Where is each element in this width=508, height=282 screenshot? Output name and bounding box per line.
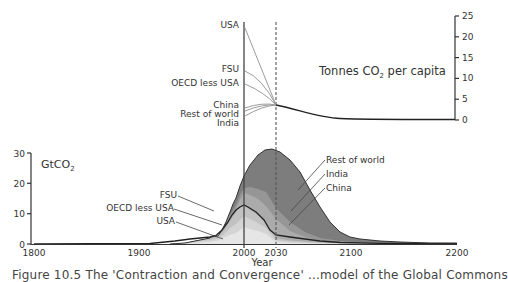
rtick-25: 25 [462,11,473,21]
label-fsu-top: FSU [222,64,239,74]
rtick-20: 20 [462,32,474,42]
bottom-left-leaders [174,196,223,239]
label-rest-of-world-bottom: Rest of world [326,155,385,165]
right-axis-labels: 25 20 15 10 5 0 [462,11,474,125]
label-usa-bottom: USA [156,216,175,226]
bottom-right-labels: Rest of world India China [326,155,385,193]
x-axis-title: Year [250,257,273,268]
per-capita-convergence-lines [245,28,276,116]
x-axis-labels: 1800 1900 2000 2030 2100 2200 Year [23,248,469,268]
right-axis [455,16,459,120]
bottom-chart-title: GtCO2 [41,158,75,173]
rtick-10: 10 [462,73,474,83]
label-oecd-top: OECD less USA [171,78,240,88]
ytick-20: 20 [14,179,26,189]
label-fsu-bottom: FSU [160,190,177,200]
label-india-top: India [217,118,239,128]
ytick-10: 10 [14,209,26,219]
line-usa-per-capita [245,28,276,105]
rtick-0: 0 [462,115,468,125]
top-country-labels: USA FSU OECD less USA China Rest of worl… [171,20,240,128]
bottom-left-axis-labels: 30 20 10 0 [14,149,26,250]
ytick-30: 30 [14,149,26,159]
bottom-left-labels: FSU OECD less USA USA [106,190,177,226]
figure-caption: Figure 10.5 The 'Contraction and Converg… [12,268,508,282]
xtick-1900: 1900 [128,248,151,258]
label-china-bottom: China [326,183,352,193]
emissions-area-chart [34,149,457,244]
xtick-1800: 1800 [23,248,46,258]
rtick-15: 15 [462,53,473,63]
xtick-2100: 2100 [340,248,363,258]
label-usa-top: USA [220,20,239,30]
line-global-per-capita [276,105,455,120]
xtick-2200: 2200 [446,248,469,258]
label-india-bottom: India [326,169,348,179]
label-oecd-bottom: OECD less USA [106,203,175,213]
top-chart-title: Tonnes CO2 per capita [318,64,446,80]
rtick-5: 5 [462,94,468,104]
